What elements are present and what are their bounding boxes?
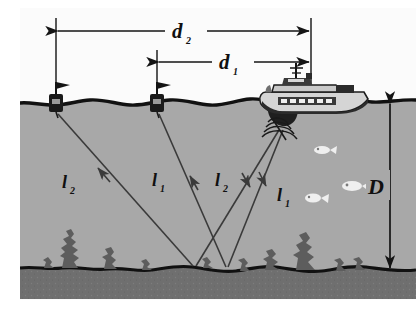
- d1-label-subscript: 1: [233, 66, 238, 77]
- left-margin: [0, 0, 20, 313]
- buoy-left-panel: [52, 99, 60, 104]
- ray-l1-out-sub: 1: [285, 198, 290, 209]
- bottom-margin: [0, 300, 416, 313]
- ship-radar-box: [306, 73, 312, 79]
- d1-label-base: d: [219, 50, 230, 74]
- ship-bridge-windows: [288, 79, 304, 82]
- seabed: [20, 266, 416, 299]
- ray-l2-out-base: l: [215, 170, 220, 190]
- d2-label-base: d: [172, 19, 183, 43]
- depth-label: D: [367, 174, 384, 199]
- ship-stack-block: [336, 85, 354, 93]
- ray-l2-out-sub: 2: [222, 183, 228, 194]
- buoy-right-panel: [153, 99, 161, 104]
- ray-l1-out-base: l: [277, 185, 282, 205]
- ray-l1-left-base: l: [152, 170, 157, 190]
- top-margin: [0, 0, 416, 8]
- ship-superstructure: [272, 85, 342, 92]
- ray-l2-left-sub: 2: [69, 185, 75, 196]
- sonar-depth-diagram: d 2 d 1 l: [0, 0, 416, 313]
- ray-l2-left-base: l: [62, 172, 67, 192]
- ray-l1-left-sub: 1: [160, 183, 165, 194]
- d2-label-subscript: 2: [185, 35, 191, 46]
